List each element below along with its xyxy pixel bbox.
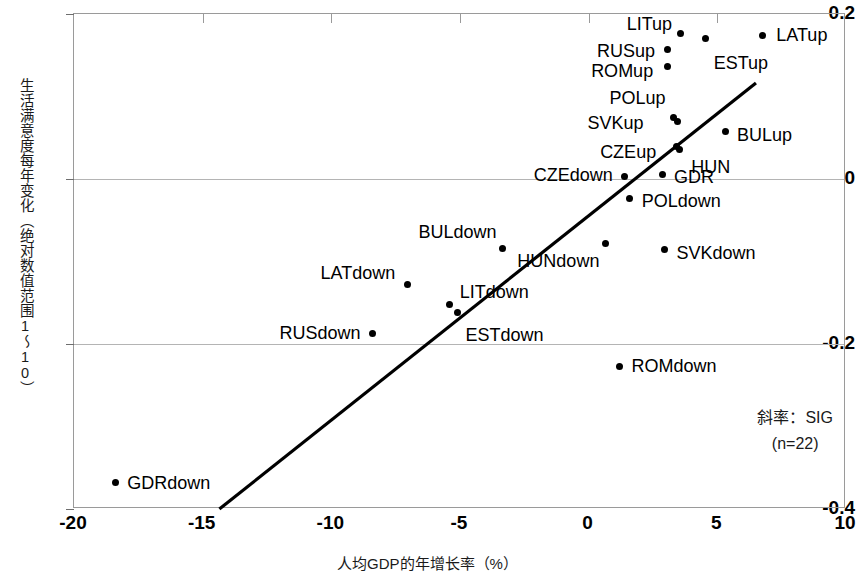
- slope-significance-text: 斜率：SIG: [757, 405, 833, 431]
- data-point: [369, 330, 376, 337]
- data-point-label: ROMdown: [632, 357, 717, 375]
- data-point: [664, 46, 671, 53]
- x-axis-tick-label: 5: [686, 512, 746, 534]
- data-point-label: RUSdown: [279, 324, 360, 342]
- data-point: [722, 128, 729, 135]
- y-axis-tick-mark: [66, 14, 74, 15]
- data-point-label: ESTup: [714, 54, 768, 72]
- y-axis-tick-mark: [66, 509, 74, 510]
- data-point: [602, 240, 609, 247]
- data-point-label: ROMup: [591, 62, 653, 80]
- data-point-label: ESTdown: [465, 326, 543, 344]
- data-point-label: HUNdown: [517, 252, 599, 270]
- slope-annotation: 斜率：SIG (n=22): [757, 405, 833, 457]
- data-point: [659, 171, 666, 178]
- data-point-label: RUSup: [597, 42, 655, 60]
- sample-size-text: (n=22): [757, 431, 833, 457]
- data-point-label: LITup: [627, 15, 672, 33]
- data-point-label: CZEup: [600, 143, 656, 161]
- y-axis-title: 生活满意度每年变化（绝对数值范围1～10）: [8, 78, 34, 396]
- x-axis-tick-label: -10: [300, 512, 360, 534]
- data-point-label: BULup: [737, 126, 792, 144]
- x-axis-tick-label: -20: [43, 512, 103, 534]
- x-axis-tick-label: -5: [429, 512, 489, 534]
- data-point: [676, 146, 683, 153]
- data-point: [404, 281, 411, 288]
- data-point: [112, 479, 119, 486]
- data-point: [759, 32, 766, 39]
- data-point: [661, 246, 668, 253]
- data-point-label: LITdown: [460, 283, 529, 301]
- data-point-label: GDR: [674, 168, 714, 186]
- plot-area: LATupLITupRUSupESTupROMupPOLupSVKupCZEup…: [73, 13, 845, 508]
- data-point-label: LATup: [776, 26, 827, 44]
- data-point: [454, 309, 461, 316]
- x-axis-title: 人均GDP的年增长率（%）: [0, 552, 855, 573]
- x-axis-tick-label: -15: [172, 512, 232, 534]
- data-point-label: CZEdown: [534, 166, 613, 184]
- data-point-label: SVKdown: [677, 244, 756, 262]
- x-axis-tick-label: 0: [558, 512, 618, 534]
- data-point-label: LATdown: [321, 264, 396, 282]
- x-axis-tick-label: 10: [815, 512, 860, 534]
- data-point-label: POLdown: [642, 192, 721, 210]
- data-point: [664, 63, 671, 70]
- data-point: [616, 363, 623, 370]
- data-point: [674, 118, 681, 125]
- data-point: [677, 30, 684, 37]
- y-axis-tick-mark: [66, 179, 74, 180]
- data-point-label: BULdown: [418, 223, 496, 241]
- data-point-label: SVKup: [587, 114, 643, 132]
- data-point: [499, 245, 506, 252]
- data-point-label: POLup: [610, 89, 666, 107]
- data-point-label: GDRdown: [127, 474, 210, 492]
- y-axis-tick-mark: [66, 344, 74, 345]
